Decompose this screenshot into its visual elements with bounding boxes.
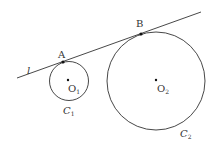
label-c2: C2 <box>180 128 192 140</box>
center-o1 <box>67 79 69 81</box>
label-a: A <box>57 49 66 60</box>
label-o2: O2 <box>157 83 169 95</box>
point-a <box>61 60 64 63</box>
geometry-diagram: l A B O1 O2 C1 C2 <box>0 0 219 151</box>
label-o1: O1 <box>68 83 80 95</box>
center-o2 <box>155 79 157 81</box>
label-b: B <box>136 18 143 29</box>
point-b <box>139 32 142 35</box>
line-label: l <box>27 65 30 76</box>
label-c1: C1 <box>63 105 74 117</box>
diagram-canvas: l A B O1 O2 C1 C2 <box>0 0 219 151</box>
circle-c1 <box>50 62 89 101</box>
